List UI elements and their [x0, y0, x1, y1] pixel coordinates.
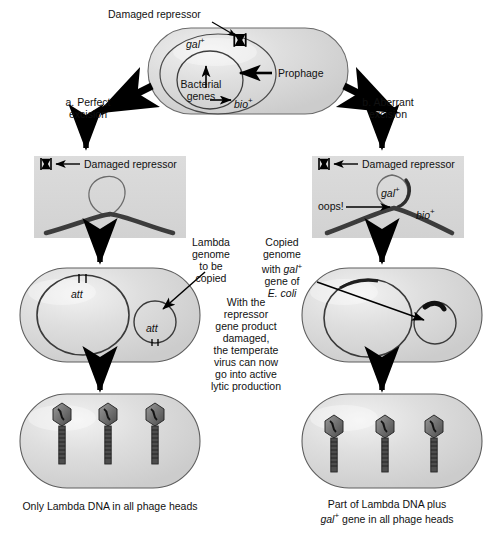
- label-oops: oops!: [318, 200, 344, 212]
- caption-right-line-2-rest: gene in all phage heads: [339, 513, 453, 525]
- callout-line-3: with gal+: [262, 263, 302, 275]
- diagram-canvas: Damaged repressor gal+ bio+ Prophage Bac…: [0, 0, 491, 539]
- callout-line-1: Lambda: [192, 236, 230, 248]
- callout-line-2: genome: [263, 248, 301, 260]
- center-note-line-6: virus can now: [214, 356, 278, 368]
- gal-text: gal: [186, 38, 200, 50]
- callout-line-4: gene of: [264, 275, 299, 287]
- right-bacterium-phages: [302, 394, 482, 488]
- branch-right-line1: b. Aberrant: [362, 96, 413, 108]
- callout-gal-superscript: +: [297, 261, 302, 270]
- gal-superscript: +: [395, 185, 400, 194]
- caption-left: Only Lambda DNA in all phage heads: [10, 500, 210, 512]
- callout-line-2: genome: [192, 248, 230, 260]
- bacterial-genes-line2: genes: [187, 90, 216, 102]
- branch-left-line2: excision: [69, 108, 107, 120]
- label-prophage: Prophage: [278, 67, 324, 79]
- caption-right: Part of Lambda DNA plus gal+ gene in all…: [292, 498, 482, 525]
- center-note-line-7: go into active: [215, 368, 277, 380]
- callout-line-3-pre: with: [262, 263, 284, 275]
- branch-right-line2: excision: [369, 108, 407, 120]
- center-note-line-5: the temperate: [214, 344, 279, 356]
- center-note-line-8: lytic production: [211, 380, 281, 392]
- diagram-graphics: [0, 0, 491, 539]
- label-att-large: att: [71, 288, 83, 300]
- caption-right-line-1: Part of Lambda DNA plus: [328, 498, 446, 510]
- label-damaged-repressor-top: Damaged repressor: [108, 8, 201, 20]
- callout-lambda-genome: Lambda genome to be copied: [180, 236, 242, 284]
- center-note-line-1: With the: [227, 296, 266, 308]
- branch-left-line1: a. Perfect: [66, 96, 111, 108]
- bio-text: bio: [416, 209, 430, 221]
- center-note-line-4: damaged,: [223, 332, 270, 344]
- center-note-line-2: repressor: [224, 308, 268, 320]
- label-damaged-repressor-left: Damaged repressor: [84, 158, 177, 170]
- label-gal-right-box: gal+: [381, 184, 400, 199]
- callout-line-1: Copied: [265, 236, 298, 248]
- bio-text: bio: [234, 98, 248, 110]
- bio-superscript: +: [248, 96, 253, 105]
- gal-superscript: +: [200, 36, 205, 45]
- callout-line-4: copied: [196, 272, 227, 284]
- callout-copied-genome: Copied genome with gal+ gene of E. coli: [248, 236, 316, 299]
- right-bacterium-stage2: [302, 268, 482, 362]
- label-att-small: att: [146, 322, 158, 334]
- label-damaged-repressor-right: Damaged repressor: [362, 158, 455, 170]
- bacterial-genes-line1: Bacterial: [181, 78, 222, 90]
- label-gal-top: gal+: [186, 35, 205, 50]
- label-bio-top: bio+: [234, 95, 253, 110]
- label-bio-right-box: bio+: [416, 206, 435, 221]
- label-branch-right: b. Aberrant excision: [348, 96, 428, 120]
- left-bacterium-stage2: [20, 268, 200, 362]
- callout-line-3: to be: [199, 260, 222, 272]
- label-bacterial-genes: Bacterial genes: [170, 78, 232, 102]
- bio-superscript: +: [430, 207, 435, 216]
- center-note: With the repressor gene product damaged,…: [196, 296, 296, 392]
- gal-text: gal: [381, 187, 395, 199]
- caption-right-gal: gal: [320, 513, 334, 525]
- label-branch-left: a. Perfect excision: [48, 96, 128, 120]
- center-note-line-3: gene product: [215, 320, 276, 332]
- callout-gal: gal: [283, 263, 297, 275]
